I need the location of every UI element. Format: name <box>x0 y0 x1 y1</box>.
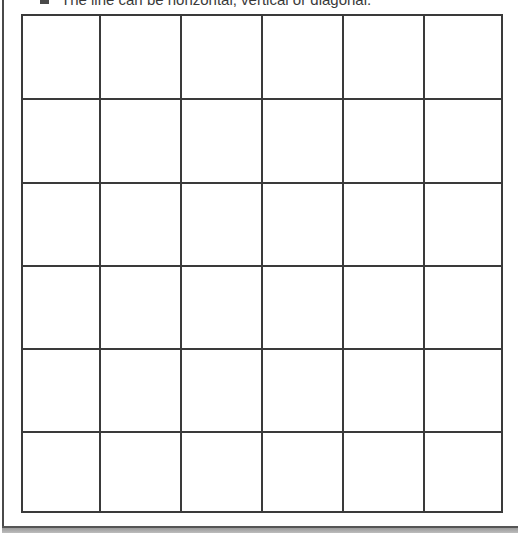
grid-cell[interactable] <box>182 184 263 267</box>
grid-cell[interactable] <box>263 16 344 100</box>
instruction-line: The line can be horizontal, vertical or … <box>40 0 371 8</box>
grid-cell[interactable] <box>101 267 182 350</box>
page-frame-left-border <box>2 0 4 528</box>
grid-cell[interactable] <box>425 184 501 267</box>
grid-cell[interactable] <box>101 100 182 184</box>
grid-cell[interactable] <box>23 16 101 100</box>
grid-cell[interactable] <box>263 350 344 433</box>
grid-cell[interactable] <box>23 350 101 433</box>
grid-cell[interactable] <box>344 350 425 433</box>
grid-cell[interactable] <box>182 433 263 511</box>
grid-cell[interactable] <box>344 16 425 100</box>
instruction-text: The line can be horizontal, vertical or … <box>61 0 371 8</box>
grid-cell[interactable] <box>344 100 425 184</box>
grid-cell[interactable] <box>425 433 501 511</box>
grid-cell[interactable] <box>23 433 101 511</box>
grid-cell[interactable] <box>23 184 101 267</box>
grid-cell[interactable] <box>425 100 501 184</box>
grid-cell[interactable] <box>101 433 182 511</box>
grid-cell[interactable] <box>425 350 501 433</box>
grid-cell[interactable] <box>263 267 344 350</box>
grid-cell[interactable] <box>425 16 501 100</box>
grid-cell[interactable] <box>263 433 344 511</box>
grid-cell[interactable] <box>344 184 425 267</box>
grid-cell[interactable] <box>425 267 501 350</box>
grid-cell[interactable] <box>23 267 101 350</box>
grid-cell[interactable] <box>263 184 344 267</box>
empty-grid-6x6 <box>21 14 503 513</box>
grid-cell[interactable] <box>263 100 344 184</box>
grid-cell[interactable] <box>101 350 182 433</box>
grid-cell[interactable] <box>182 16 263 100</box>
grid-cell[interactable] <box>101 184 182 267</box>
grid-cell[interactable] <box>23 100 101 184</box>
grid-cell[interactable] <box>344 267 425 350</box>
grid-cell[interactable] <box>101 16 182 100</box>
grid-cell[interactable] <box>182 267 263 350</box>
square-bullet-icon <box>40 0 49 4</box>
grid-cell[interactable] <box>344 433 425 511</box>
page-frame-bottom-border <box>2 526 518 533</box>
grid-cell[interactable] <box>182 350 263 433</box>
grid-cell[interactable] <box>182 100 263 184</box>
